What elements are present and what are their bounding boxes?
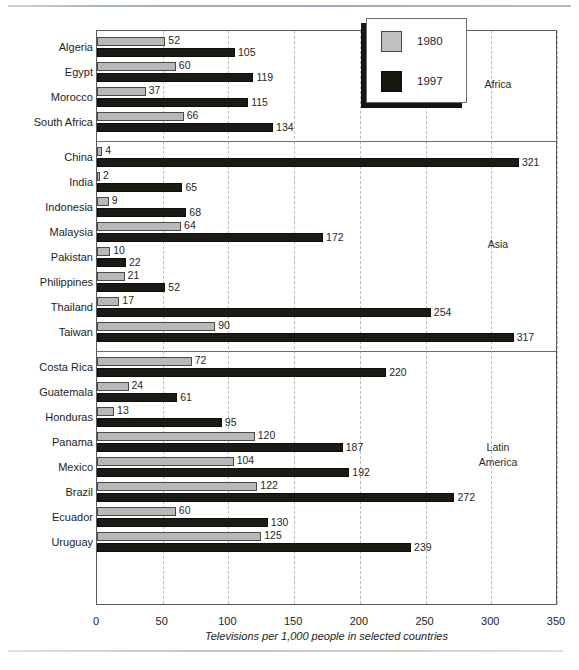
- bar-1997-pakistan: [97, 258, 126, 267]
- bar-value-label: 66: [187, 110, 199, 121]
- bar-value-label: 60: [179, 60, 191, 71]
- bar-1997-ecuador: [97, 518, 268, 527]
- bar-value-label: 13: [117, 405, 129, 416]
- category-label-algeria: Algeria: [1, 41, 93, 53]
- bar-1980-uruguay: [97, 532, 261, 541]
- bar-value-label: 65: [185, 182, 197, 193]
- legend-swatch-1997: [381, 71, 402, 92]
- bar-row: 968: [97, 195, 558, 220]
- bar-1980-ecuador: [97, 507, 176, 516]
- category-label-column: AlgeriaEgyptMoroccoSouth AfricaChinaIndi…: [0, 30, 93, 605]
- bar-1980-guatemala: [97, 382, 129, 391]
- bar-row: 1395: [97, 405, 558, 430]
- category-label-guatemala: Guatemala: [1, 386, 93, 398]
- bar-1997-panama: [97, 443, 343, 452]
- bar-value-label: 105: [238, 47, 256, 58]
- bar-1997-thailand: [97, 308, 431, 317]
- category-label-china: China: [1, 151, 93, 163]
- bar-value-label: 90: [218, 320, 230, 331]
- bar-1997-brazil: [97, 493, 454, 502]
- category-label-thailand: Thailand: [1, 301, 93, 313]
- bar-value-label: 17: [122, 295, 134, 306]
- legend-label-1997: 1997: [417, 75, 443, 87]
- x-tick-label-150: 150: [284, 615, 302, 627]
- bar-1980-india: [97, 172, 100, 181]
- bar-1997-mexico: [97, 468, 349, 477]
- x-tick-label-100: 100: [218, 615, 236, 627]
- bar-value-label: 24: [132, 380, 144, 391]
- bar-row: 265: [97, 170, 558, 195]
- bar-row: 2152: [97, 270, 558, 295]
- category-label-ecuador: Ecuador: [1, 511, 93, 523]
- bar-1980-algeria: [97, 37, 165, 46]
- category-label-egypt: Egypt: [1, 66, 93, 78]
- bar-row: 122272: [97, 480, 558, 505]
- bar-1980-china: [97, 147, 102, 156]
- legend-swatch-1980: [381, 31, 402, 52]
- x-tick-label-0: 0: [93, 615, 99, 627]
- bar-value-label: 95: [225, 417, 237, 428]
- bar-value-label: 21: [128, 270, 140, 281]
- bar-value-label: 321: [522, 157, 540, 168]
- x-axis-title: Televisions per 1,000 people in selected…: [96, 630, 557, 642]
- bar-value-label: 104: [237, 455, 255, 466]
- section-divider-latin-america: [97, 351, 556, 352]
- bar-row: 60119: [97, 60, 558, 85]
- category-label-panama: Panama: [1, 436, 93, 448]
- bar-value-label: 172: [326, 232, 344, 243]
- bar-value-label: 52: [168, 282, 180, 293]
- bar-value-label: 10: [113, 245, 125, 256]
- bar-row: 1022: [97, 245, 558, 270]
- bar-value-label: 220: [389, 367, 407, 378]
- category-label-south-africa: South Africa: [1, 116, 93, 128]
- bar-1980-mexico: [97, 457, 234, 466]
- bar-1997-uruguay: [97, 543, 411, 552]
- bar-value-label: 192: [352, 467, 370, 478]
- bar-1980-taiwan: [97, 322, 215, 331]
- bar-value-label: 119: [256, 72, 273, 83]
- bar-1997-costa-rica: [97, 368, 386, 377]
- category-label-brazil: Brazil: [1, 486, 93, 498]
- bar-1997-india: [97, 183, 182, 192]
- bar-value-label: 72: [195, 355, 207, 366]
- bar-value-label: 120: [258, 430, 276, 441]
- bar-value-label: 9: [112, 195, 118, 206]
- bar-1997-taiwan: [97, 333, 514, 342]
- category-label-honduras: Honduras: [1, 411, 93, 423]
- category-label-uruguay: Uruguay: [1, 536, 93, 548]
- x-tick-label-300: 300: [481, 615, 499, 627]
- category-label-taiwan: Taiwan: [1, 326, 93, 338]
- bar-1997-egypt: [97, 73, 253, 82]
- bar-value-label: 317: [517, 332, 535, 343]
- bar-1980-egypt: [97, 62, 176, 71]
- bar-row: 4321: [97, 145, 558, 170]
- legend-label-1980: 1980: [417, 35, 443, 47]
- bar-1997-china: [97, 158, 519, 167]
- bar-value-label: 115: [251, 97, 268, 108]
- category-label-india: India: [1, 176, 93, 188]
- bar-value-label: 130: [271, 517, 289, 528]
- category-label-philippines: Philippines: [1, 276, 93, 288]
- bar-value-label: 272: [457, 492, 475, 503]
- bar-value-label: 60: [179, 505, 191, 516]
- bottom-decorative-rule: [8, 650, 563, 652]
- category-label-morocco: Morocco: [1, 91, 93, 103]
- bar-1980-brazil: [97, 482, 257, 491]
- bar-value-label: 64: [184, 220, 196, 231]
- bar-1980-costa-rica: [97, 357, 192, 366]
- bar-value-label: 52: [168, 35, 180, 46]
- category-label-mexico: Mexico: [1, 461, 93, 473]
- bar-1980-pakistan: [97, 247, 110, 256]
- bar-value-label: 37: [149, 85, 161, 96]
- category-label-pakistan: Pakistan: [1, 251, 93, 263]
- top-decorative-rule: [8, 5, 571, 7]
- bar-1997-philippines: [97, 283, 165, 292]
- bar-1997-morocco: [97, 98, 248, 107]
- bar-value-label: 239: [414, 542, 432, 553]
- bar-row: 52105: [97, 35, 558, 60]
- x-tick-label-350: 350: [547, 615, 565, 627]
- bar-value-label: 125: [264, 530, 282, 541]
- bar-row: 120187: [97, 430, 558, 455]
- x-tick-label-250: 250: [415, 615, 433, 627]
- bar-row: 2461: [97, 380, 558, 405]
